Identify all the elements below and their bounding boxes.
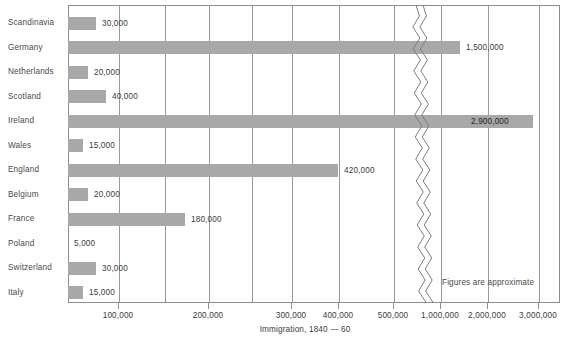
category-label-poland: Poland	[8, 239, 66, 249]
category-label-ireland: Ireland	[8, 116, 66, 126]
x-axis-tick	[118, 303, 119, 309]
x-axis-tick	[440, 303, 441, 309]
bar-england	[68, 164, 338, 177]
x-axis-tick-label: 2,000,000	[468, 311, 506, 320]
category-label-england: England	[8, 165, 66, 175]
value-label-france: 180,000	[191, 213, 222, 226]
category-label-wales: Wales	[8, 141, 66, 151]
bar-scandinavia	[68, 17, 96, 30]
x-axis-tick	[208, 303, 209, 309]
value-label-switzerland: 30,000	[102, 262, 128, 275]
category-label-netherlands: Netherlands	[8, 67, 66, 77]
x-axis-tick	[538, 303, 539, 309]
bar-wales	[68, 139, 83, 152]
category-label-belgium: Belgium	[8, 190, 66, 200]
bar-netherlands	[68, 66, 88, 79]
x-axis-tick-label: 400,000	[323, 311, 354, 320]
bar-scotland	[68, 90, 106, 103]
x-axis-tick-label: 3,000,000	[519, 311, 557, 320]
x-axis-tick	[338, 303, 339, 309]
category-label-italy: Italy	[8, 288, 66, 298]
bar-belgium	[68, 188, 88, 201]
value-label-scotland: 40,000	[112, 90, 138, 103]
value-label-ireland: 2,900,000	[471, 115, 509, 128]
x-axis-title: Immigration, 1840 — 60	[260, 325, 351, 334]
x-axis-tick	[393, 303, 394, 309]
value-label-belgium: 20,000	[94, 188, 120, 201]
value-label-netherlands: 20,000	[94, 66, 120, 79]
value-label-scandinavia: 30,000	[102, 17, 128, 30]
bar-italy	[68, 286, 83, 299]
category-label-scotland: Scotland	[8, 92, 66, 102]
category-label-germany: Germany	[8, 43, 66, 53]
value-label-wales: 15,000	[89, 139, 115, 152]
category-label-france: France	[8, 214, 66, 224]
x-axis-tick-label: 200,000	[193, 311, 224, 320]
value-label-england: 420,000	[344, 164, 375, 177]
x-axis-tick	[487, 303, 488, 309]
x-axis-tick-label: 1,000,000	[421, 311, 459, 320]
bar-germany	[68, 41, 460, 54]
category-label-scandinavia: Scandinavia	[8, 18, 66, 28]
value-label-germany: 1,500,000	[466, 41, 504, 54]
value-label-italy: 15,000	[89, 286, 115, 299]
x-axis-tick-label: 500,000	[378, 311, 409, 320]
value-label-poland: 5,000	[74, 237, 95, 250]
bar-switzerland	[68, 262, 96, 275]
x-axis-tick-label: 300,000	[276, 311, 307, 320]
figures-approximate-note: Figures are approximate	[442, 278, 534, 287]
gridline	[539, 6, 540, 302]
immigration-bar-chart: Scandinavia30,000Germany1,500,000Netherl…	[0, 0, 577, 352]
category-label-switzerland: Switzerland	[8, 263, 66, 273]
bar-ireland	[68, 115, 533, 128]
x-axis-tick-label: 100,000	[103, 311, 134, 320]
x-axis-tick	[291, 303, 292, 309]
bar-france	[68, 213, 185, 226]
